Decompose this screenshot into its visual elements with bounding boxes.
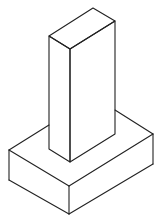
base-top-front-right-edge	[69, 134, 153, 186]
column-top-face	[49, 8, 115, 49]
isometric-figure	[0, 0, 162, 224]
base-top-right-edge-back	[115, 110, 153, 134]
base-bottom-front-left-edge	[9, 180, 69, 214]
base-top-left-edge-back	[9, 125, 49, 150]
column	[49, 8, 115, 162]
base-block	[9, 110, 153, 214]
base-bottom-front-right-edge	[69, 164, 153, 214]
column-front-right-face	[70, 21, 115, 162]
column-front-left-face	[49, 36, 70, 162]
